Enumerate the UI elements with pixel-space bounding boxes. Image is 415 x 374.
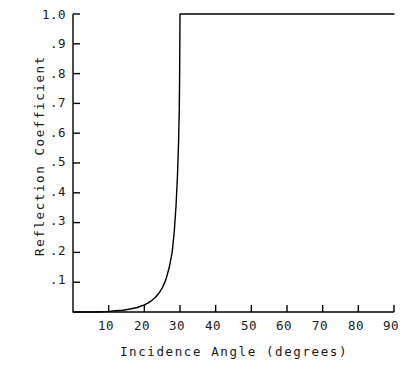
x-axis-ticks — [109, 305, 394, 312]
chart-figure: Reflection Coefficient Incidence Angle (… — [0, 0, 415, 374]
y-axis-ticks — [73, 14, 80, 282]
data-series-line — [73, 14, 394, 312]
axis-lines — [73, 14, 394, 312]
plot-canvas — [0, 0, 415, 374]
